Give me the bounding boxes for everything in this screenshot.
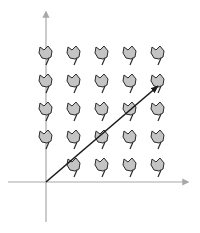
field-glyph-icon (151, 102, 164, 121)
field-glyph-icon (123, 46, 136, 65)
field-glyph-icon (95, 102, 108, 121)
field-glyph-icon (151, 130, 164, 149)
field-glyph-icon (95, 130, 108, 149)
field-glyph-icon (123, 158, 136, 177)
vector-field-diagram (0, 0, 200, 233)
field-glyph-icon (123, 74, 136, 93)
field-glyph-icon (151, 46, 164, 65)
field-glyph-icon (67, 130, 80, 149)
field-glyph-icon (95, 74, 108, 93)
field-glyph-icon (67, 158, 80, 177)
field-glyph-icon (67, 102, 80, 121)
vector-field-glyphs (39, 46, 164, 177)
field-glyph-icon (95, 46, 108, 65)
field-glyph-icon (151, 158, 164, 177)
field-glyph-icon (123, 102, 136, 121)
field-glyph-icon (123, 130, 136, 149)
field-glyph-icon (95, 158, 108, 177)
field-glyph-icon (67, 46, 80, 65)
field-glyph-icon (67, 74, 80, 93)
